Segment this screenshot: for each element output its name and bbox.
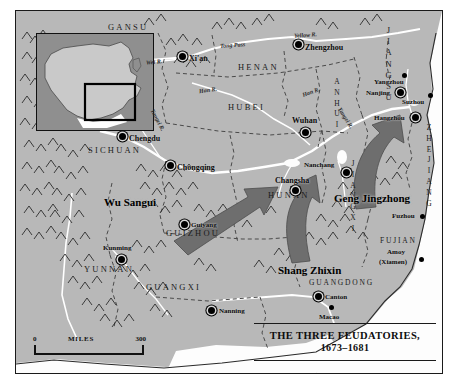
city-label-changsha: Changsha bbox=[275, 177, 309, 185]
inset-korea-japan bbox=[133, 58, 141, 72]
province-label-gansu: GANSU bbox=[108, 23, 148, 32]
scale-unit-label: MILES bbox=[68, 335, 94, 343]
city-label-canton: Canton bbox=[325, 294, 347, 301]
map-title-line-1: THE THREE FEUDATORIES, bbox=[254, 328, 436, 342]
river-label-han-east: Han R. bbox=[302, 86, 321, 98]
city-dot-changsha bbox=[292, 187, 299, 194]
river-label-wei: Wei R. bbox=[146, 58, 163, 66]
title-rule-top bbox=[254, 323, 436, 324]
city-dot-amoy-xiamen bbox=[419, 257, 424, 262]
city-dot-suzhou bbox=[428, 93, 433, 98]
province-label-sichuan: SICHUAN bbox=[88, 146, 141, 155]
province-label-hunan: HUNAN bbox=[268, 191, 310, 200]
city-dot-xian bbox=[179, 53, 186, 60]
city-dot-hangzhou bbox=[412, 114, 419, 121]
city-label-xiamen: (Xiamen) bbox=[379, 259, 407, 266]
scale-bar-labels: 0 MILES 300 bbox=[34, 335, 144, 345]
city-label-guiyang: Guiyang bbox=[191, 222, 217, 229]
city-label-xian: Xi'an bbox=[189, 55, 208, 63]
city-dot-fuzhou bbox=[420, 214, 425, 219]
city-label-chengdu: Chengdu bbox=[129, 135, 160, 143]
city-label-yangzhou: Yangzhou bbox=[374, 79, 404, 86]
city-dot-nanjing bbox=[397, 89, 404, 96]
river-label-han-west: Han R. bbox=[199, 86, 218, 94]
yellow-river bbox=[112, 29, 420, 61]
leader-label-shang-zhixin: Shang Zhixin bbox=[278, 265, 341, 276]
city-dot-nanning bbox=[208, 307, 215, 314]
scale-bar-graphic bbox=[34, 345, 144, 355]
city-dot-chongqing bbox=[167, 162, 174, 169]
map-title-line-2: 1673–1681 bbox=[254, 342, 436, 356]
province-label-anhui: ANHUI bbox=[333, 77, 341, 131]
inset-sea-south bbox=[77, 114, 127, 128]
city-label-kunming: Kunming bbox=[103, 245, 131, 252]
inset-geography bbox=[37, 34, 153, 130]
inset-locator-map bbox=[36, 33, 154, 131]
feature-label-tong-pass: Tong Pass bbox=[220, 41, 246, 49]
city-label-chongqing: Chongqing bbox=[177, 164, 215, 172]
dongting-lake bbox=[284, 159, 300, 167]
province-label-yunnan: YUNNAN bbox=[84, 265, 134, 274]
inset-china-landmass bbox=[45, 42, 141, 120]
leader-label-wu-sangui: Wu Sangui bbox=[104, 197, 156, 208]
leader-label-geng-jingzhong: Geng Jingzhong bbox=[334, 193, 410, 204]
province-label-guangxi: GUANGXI bbox=[146, 283, 201, 292]
city-dot-chengdu bbox=[119, 133, 126, 140]
city-dot-kunming bbox=[118, 256, 125, 263]
map-title-cartouche: THE THREE FEUDATORIES, 1673–1681 bbox=[254, 319, 436, 365]
advance-arrows bbox=[174, 115, 404, 263]
city-label-nanjing: Nanjing bbox=[366, 90, 390, 97]
province-label-guangdong: GUANGDONG bbox=[309, 279, 374, 287]
city-dot-canton bbox=[315, 293, 322, 300]
city-label-hangzhou: Hangzhou bbox=[374, 115, 405, 122]
city-dot-wuhan bbox=[302, 129, 309, 136]
city-label-nanning: Nanning bbox=[219, 308, 245, 315]
scale-max-label: 300 bbox=[136, 335, 147, 343]
city-label-suzhou: Suzhou bbox=[402, 99, 424, 106]
city-label-zhengzhou: Zhengzhou bbox=[305, 44, 343, 52]
province-label-henan: HENAN bbox=[238, 63, 279, 72]
city-dot-nanchang bbox=[343, 169, 350, 176]
city-label-nanchang: Nanchang bbox=[304, 162, 334, 169]
province-label-zhejiang: ZHEJIANG bbox=[425, 123, 433, 209]
inset-highlight-rectangle bbox=[85, 84, 135, 120]
city-dot-zhengzhou bbox=[295, 41, 302, 48]
scale-min-label: 0 bbox=[33, 335, 37, 343]
wu-sangui-advance-arrow bbox=[174, 187, 278, 255]
mekong-river bbox=[62, 193, 78, 341]
city-dot-guiyang bbox=[181, 221, 188, 228]
province-label-guizhou: GUIZHOU bbox=[166, 229, 220, 238]
city-label-amoy: Amoy bbox=[387, 249, 405, 256]
province-label-hubei: HUBEI bbox=[228, 103, 265, 112]
map-frame: GANSU HENAN JIANGSU HUBEI ANHUI ZHEJIANG… bbox=[15, 10, 443, 374]
scale-bar: 0 MILES 300 bbox=[34, 335, 144, 355]
province-label-fujian: FUJIAN bbox=[380, 237, 417, 245]
title-rule-bottom bbox=[254, 360, 436, 361]
city-dot-macao bbox=[329, 305, 334, 310]
city-label-fuzhou: Fuzhou bbox=[392, 213, 415, 220]
city-label-wuhan: Wuhan bbox=[292, 117, 317, 125]
river-label-yellow: Yellow R. bbox=[294, 31, 317, 39]
poyang-lake bbox=[337, 150, 347, 164]
map-page: GANSU HENAN JIANGSU HUBEI ANHUI ZHEJIANG… bbox=[0, 0, 456, 387]
